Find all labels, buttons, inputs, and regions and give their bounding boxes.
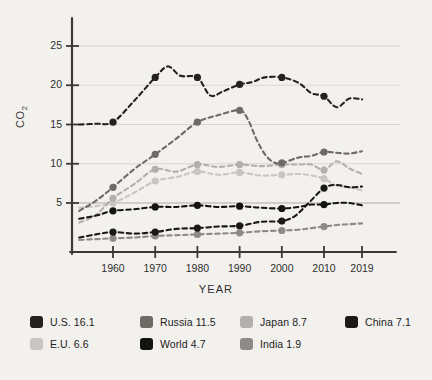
data-point (320, 184, 327, 191)
chart-page: CO2 510152025 19601970198019902000201020… (0, 0, 432, 380)
y-tick-label: 15 (36, 118, 62, 130)
data-point (109, 119, 116, 126)
data-point (194, 161, 201, 168)
series-eu (79, 168, 362, 208)
data-point (109, 195, 116, 202)
x-tick-label: 2019 (342, 262, 382, 274)
x-tick-label: 2010 (304, 262, 344, 274)
data-point (194, 74, 201, 81)
legend-item-japan[interactable]: Japan 8.7 (240, 316, 307, 328)
y-tick-label: 5 (36, 196, 62, 208)
series-russia (79, 107, 362, 211)
data-point (320, 166, 327, 173)
series-line (79, 110, 362, 211)
series-line (79, 172, 362, 208)
data-point (278, 227, 285, 234)
data-point (320, 148, 327, 155)
data-point (194, 231, 201, 238)
data-point (152, 151, 159, 158)
legend-swatch-china (345, 316, 358, 328)
legend-label-world: World 4.7 (160, 338, 206, 350)
x-axis-title: YEAR (0, 283, 432, 295)
data-point (152, 228, 159, 235)
data-point (320, 201, 327, 208)
series-line (79, 66, 362, 124)
legend-swatch-japan (240, 316, 253, 328)
series-line (79, 203, 362, 219)
legend-swatch-us (30, 316, 43, 328)
legend-label-china: China 7.1 (365, 316, 411, 328)
chart-figure: CO2 510152025 19601970198019902000201020… (0, 0, 432, 300)
y-tick-label: 25 (36, 39, 62, 51)
legend-item-world[interactable]: World 4.7 (140, 338, 206, 350)
data-point (278, 159, 285, 166)
legend-swatch-world (140, 338, 153, 350)
legend-label-japan: Japan 8.7 (260, 316, 307, 328)
y-tick-label: 20 (36, 78, 62, 90)
legend-swatch-russia (140, 316, 153, 328)
data-point (278, 217, 285, 224)
legend-item-china[interactable]: China 7.1 (345, 316, 411, 328)
data-point (194, 119, 201, 126)
data-point (320, 175, 327, 182)
series-us (79, 66, 362, 125)
legend-label-us: U.S. 16.1 (50, 316, 95, 328)
data-point (152, 177, 159, 184)
chart-legend: U.S. 16.1Russia 11.5Japan 8.7China 7.1E.… (0, 312, 432, 372)
x-tick-label: 2000 (262, 262, 302, 274)
legend-swatch-eu (30, 338, 43, 350)
data-point (236, 81, 243, 88)
data-point (236, 222, 243, 229)
data-point (278, 171, 285, 178)
data-point (109, 235, 116, 242)
data-point (278, 74, 285, 81)
data-point (236, 203, 243, 210)
legend-item-india[interactable]: India 1.9 (240, 338, 301, 350)
y-axis-title: CO2 (14, 106, 29, 128)
legend-item-russia[interactable]: Russia 11.5 (140, 316, 216, 328)
data-point (109, 228, 116, 235)
data-point (236, 229, 243, 236)
legend-item-us[interactable]: U.S. 16.1 (30, 316, 95, 328)
legend-label-russia: Russia 11.5 (160, 316, 216, 328)
data-point (152, 166, 159, 173)
data-point (152, 203, 159, 210)
legend-swatch-india (240, 338, 253, 350)
x-tick-label: 1990 (220, 262, 260, 274)
data-point (109, 207, 116, 214)
x-tick-label: 1960 (93, 262, 133, 274)
data-point (152, 74, 159, 81)
y-tick-label: 10 (36, 157, 62, 169)
data-point (320, 223, 327, 230)
data-point (109, 184, 116, 191)
data-point (320, 93, 327, 100)
legend-item-eu[interactable]: E.U. 6.6 (30, 338, 89, 350)
data-point (236, 107, 243, 114)
data-point (278, 205, 285, 212)
plot-canvas (0, 0, 432, 300)
legend-label-india: India 1.9 (260, 338, 301, 350)
data-point (194, 225, 201, 232)
data-point (236, 161, 243, 168)
data-point (194, 168, 201, 175)
data-point (236, 169, 243, 176)
series-world (79, 201, 362, 219)
x-tick-label: 1970 (135, 262, 175, 274)
x-tick-label: 1980 (177, 262, 217, 274)
legend-label-eu: E.U. 6.6 (50, 338, 89, 350)
data-point (194, 202, 201, 209)
